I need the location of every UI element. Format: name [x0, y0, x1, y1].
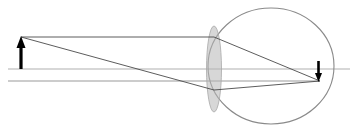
optics-ray-diagram: [0, 0, 355, 130]
diagram-background: [0, 0, 355, 130]
ray-diagram-container: [0, 0, 355, 130]
